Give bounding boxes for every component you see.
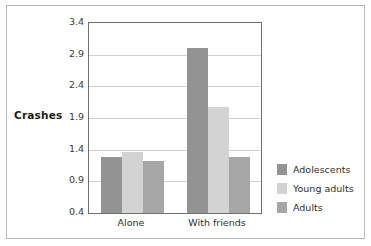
y-axis-tick-label: 1.9 <box>58 112 84 122</box>
bar-group <box>101 23 164 213</box>
x-axis-tick-label: Alone <box>118 217 145 228</box>
legend-item[interactable]: Young adults <box>277 179 361 198</box>
legend-swatch-icon <box>277 164 287 175</box>
plot-area <box>88 22 262 214</box>
bar[interactable] <box>101 157 122 213</box>
bar[interactable] <box>122 152 143 213</box>
y-axis-tick-label: 0.9 <box>58 176 84 186</box>
legend-item-label: Adolescents <box>293 165 350 175</box>
chart-figure: Crashes 3.42.92.41.91.40.90.4 AloneWith … <box>0 0 371 246</box>
legend-item[interactable]: Adolescents <box>277 160 361 179</box>
legend-item[interactable]: Adults <box>277 198 361 217</box>
y-axis-tick-label: 0.4 <box>58 207 84 217</box>
bar[interactable] <box>187 48 208 213</box>
bar[interactable] <box>208 107 229 213</box>
y-axis-tick-label: 2.9 <box>58 49 84 59</box>
bar[interactable] <box>229 157 250 213</box>
x-axis-tick-labels: AloneWith friends <box>88 217 262 233</box>
legend-item-label: Young adults <box>293 184 354 194</box>
y-axis-tick-label: 2.4 <box>58 81 84 91</box>
legend-swatch-icon <box>277 202 287 213</box>
legend-item-label: Adults <box>293 203 323 213</box>
bar[interactable] <box>143 161 164 213</box>
y-axis-tick-labels: 3.42.92.41.91.40.90.4 <box>56 22 84 214</box>
x-axis-tick-label: With friends <box>188 217 245 228</box>
chart-legend: AdolescentsYoung adultsAdults <box>277 160 361 217</box>
legend-swatch-icon <box>277 183 287 194</box>
y-axis-tick-label: 1.4 <box>58 144 84 154</box>
bar-group <box>187 23 250 213</box>
y-axis-tick-label: 3.4 <box>58 17 84 27</box>
